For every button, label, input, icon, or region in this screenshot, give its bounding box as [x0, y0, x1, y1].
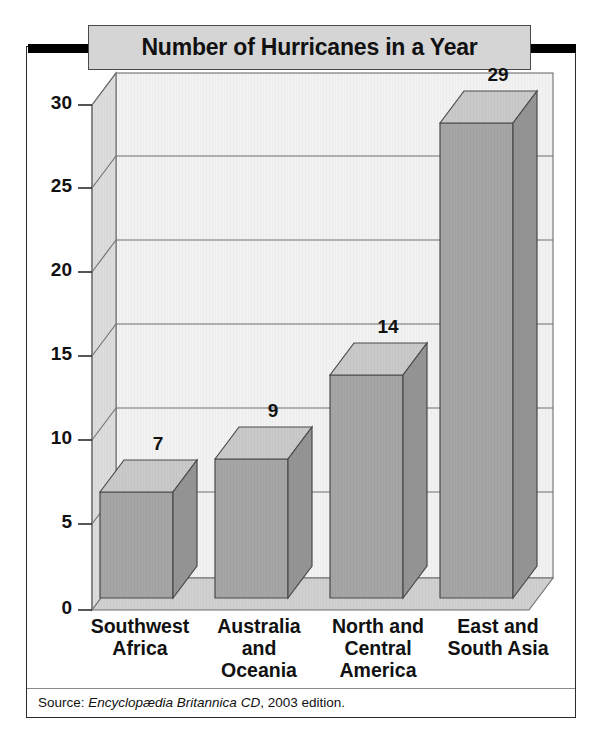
source-divider: [27, 688, 575, 689]
y-axis-ticks: [78, 105, 92, 610]
y-tick-label-25: 25: [32, 175, 72, 197]
y-tick-label-5: 5: [32, 511, 72, 533]
category-label-east-south-asia: East and South Asia: [423, 616, 573, 660]
source-caption: Source: Encyclopædia Britannica CD, 2003…: [38, 695, 345, 710]
y-tick-label-15: 15: [32, 343, 72, 365]
y-tick-label-20: 20: [32, 259, 72, 281]
source-work-title: Encyclopædia Britannica CD: [88, 695, 260, 710]
y-tick-label-30: 30: [32, 92, 72, 114]
bar-east-south-asia[interactable]: [440, 91, 537, 598]
y-tick-label-10: 10: [32, 427, 72, 449]
bar-australia-oceania[interactable]: [215, 427, 312, 598]
y-tick-label-0: 0: [32, 597, 72, 619]
source-prefix: Source:: [38, 695, 85, 710]
value-label-australia-oceania: 9: [233, 400, 313, 422]
plot-area: 30 25 20 15 10 5 0 7 9 14 29 Southwest A…: [26, 46, 576, 718]
bar-southwest-africa[interactable]: [100, 460, 197, 598]
value-label-east-south-asia: 29: [458, 64, 538, 86]
hurricanes-figure: Number of Hurricanes in a Year: [0, 0, 599, 748]
category-line: South Asia: [423, 638, 573, 660]
category-line: America: [303, 660, 453, 682]
source-suffix: , 2003 edition.: [260, 695, 345, 710]
value-label-southwest-africa: 7: [118, 433, 198, 455]
category-line: East and: [423, 616, 573, 638]
bar-north-central-america[interactable]: [330, 343, 427, 598]
value-label-north-central-america: 14: [348, 316, 428, 338]
